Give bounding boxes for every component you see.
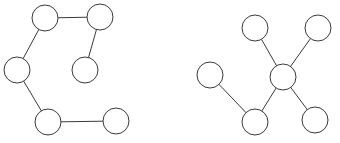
graph-node[interactable] <box>270 64 296 90</box>
graph-edge <box>261 39 276 65</box>
graph-edge <box>58 17 87 18</box>
graph-node[interactable] <box>197 62 223 88</box>
graph-edge <box>89 30 97 58</box>
graph-node[interactable] <box>242 15 268 41</box>
edge-group-right-graph <box>219 39 310 113</box>
graph-edge <box>219 84 246 112</box>
graph-edge <box>291 87 307 109</box>
graph-edge <box>61 121 103 122</box>
graph-node[interactable] <box>35 109 61 135</box>
graph-node[interactable] <box>302 107 328 133</box>
graph-node[interactable] <box>72 57 98 83</box>
graph-node[interactable] <box>32 5 58 31</box>
graph-node[interactable] <box>103 108 129 134</box>
graph-edge <box>262 88 276 111</box>
graph-edge <box>291 39 311 67</box>
graph-edge <box>24 81 42 111</box>
graph-edge <box>23 29 39 58</box>
nodes-layer <box>4 4 331 135</box>
graph-node[interactable] <box>305 15 331 41</box>
graph-node[interactable] <box>242 109 268 135</box>
graph-node[interactable] <box>4 57 30 83</box>
node-group-right-graph <box>197 15 331 135</box>
node-group-left-graph <box>4 4 129 135</box>
graph-node[interactable] <box>87 4 113 30</box>
diagram-canvas <box>0 0 340 143</box>
graph-diagram-svg <box>0 0 340 143</box>
